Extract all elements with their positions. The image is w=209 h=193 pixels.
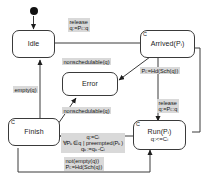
label-arrived-to-run-line1: Pᵢ:=Hd(Sch(q)) — [142, 68, 179, 74]
state-arrived[interactable]: C Arrived(Pᵢ) — [140, 30, 195, 58]
state-idle[interactable]: Idle — [12, 30, 55, 58]
label-idle-to-arrived-line1: release — [70, 19, 89, 25]
state-finish[interactable]: C Finish — [8, 118, 60, 146]
state-finish-composite-marker: C — [11, 119, 15, 125]
label-finish-to-error-line1: nonschedulable(q) — [64, 108, 110, 114]
state-arrived-label: Arrived(Pᵢ) — [151, 40, 185, 48]
label-idle-to-arrived-line2: q:=Pᵢ::q — [70, 25, 89, 31]
state-run-guard: q:<=Cᵢ — [151, 136, 168, 143]
label-finish-to-run: not(empty(q)) Pᵢ:=Hd(Sch(q)) — [64, 157, 104, 171]
label-run-to-arrived: release q:=Pᵢ::q — [157, 99, 179, 113]
label-run-to-finish-line3: qₖ:=qₖ-Cᵢ — [63, 146, 124, 152]
label-run-to-arrived-line1: release — [159, 100, 178, 106]
label-finish-to-idle-line1: empty(q) — [15, 87, 37, 93]
state-idle-label: Idle — [28, 40, 40, 48]
state-arrived-composite-marker: C — [143, 31, 147, 37]
state-run[interactable]: C Run(Pᵢ) q:<=Cᵢ — [133, 120, 186, 150]
label-arrived-to-error: nonschedulable(q) — [62, 58, 111, 65]
state-finish-label: Finish — [24, 128, 43, 136]
label-finish-to-error: nonschedulable(q) — [62, 107, 111, 114]
label-idle-to-arrived: release q:=Pᵢ::q — [68, 18, 90, 32]
state-error-label: Error — [82, 80, 98, 88]
label-run-to-finish: q:=Cᵢ ∀Pₖ∈q | preempted(Pₖ) qₖ:=qₖ-Cᵢ — [61, 133, 125, 153]
label-finish-to-run-line2: Pᵢ:=Hd(Sch(q)) — [66, 164, 103, 170]
state-run-composite-marker: C — [136, 121, 140, 127]
label-arrived-to-run: Pᵢ:=Hd(Sch(q)) — [140, 67, 180, 74]
diagram-edges — [0, 0, 209, 193]
label-arrived-to-error-line1: nonschedulable(q) — [64, 59, 110, 65]
state-run-label: Run(Pᵢ) — [148, 128, 172, 136]
state-machine-diagram: Idle C Arrived(Pᵢ) Error C Finish C Run(… — [0, 0, 209, 193]
initial-state-dot — [30, 7, 38, 15]
edge-run-to-arrived — [186, 48, 200, 132]
label-finish-to-run-line1: not(empty(q)) — [66, 158, 103, 164]
label-run-to-arrived-line2: q:=Pᵢ::q — [159, 106, 178, 112]
label-finish-to-idle: empty(q) — [13, 86, 38, 93]
state-error[interactable]: Error — [62, 72, 118, 96]
